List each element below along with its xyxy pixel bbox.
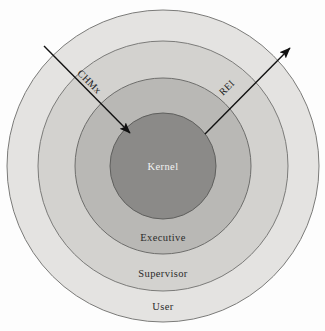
- ring-label-kernel: Kernel: [148, 161, 179, 172]
- ring-label-user: User: [152, 301, 174, 312]
- protection-rings-diagram: Kernel Executive Supervisor User CHMx RE…: [0, 0, 325, 331]
- ring-label-executive: Executive: [140, 232, 186, 243]
- diagram-canvas: Kernel Executive Supervisor User CHMx RE…: [0, 0, 325, 331]
- ring-label-supervisor: Supervisor: [138, 268, 188, 279]
